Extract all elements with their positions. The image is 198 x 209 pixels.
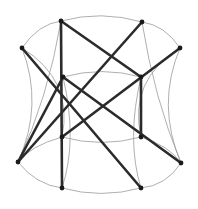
graph-vertex <box>140 20 145 25</box>
graph-vertex <box>60 186 65 191</box>
arc-edge <box>63 72 141 78</box>
graph-canvas <box>0 0 198 209</box>
arc-edge <box>61 16 142 22</box>
graph-vertex <box>179 161 184 166</box>
graph-vertex <box>61 75 66 80</box>
graph-vertex <box>139 135 144 140</box>
straight-edge <box>63 77 181 163</box>
arc-edge <box>22 48 64 137</box>
graph-vertex <box>139 75 144 80</box>
arc-edge <box>168 48 181 163</box>
graph-vertex <box>60 135 65 140</box>
arc-edge <box>18 162 62 188</box>
arc-edge <box>18 48 32 162</box>
graph-vertex <box>59 19 64 24</box>
graph-vertex <box>178 46 183 51</box>
graph-vertex <box>139 186 144 191</box>
straight-edge-layer <box>18 21 181 188</box>
arc-edge <box>138 48 180 137</box>
graph-vertex <box>16 160 21 165</box>
arc-edge <box>142 22 181 163</box>
straight-edge <box>61 21 62 188</box>
arc-edge <box>62 188 141 194</box>
arc-edge <box>22 21 61 48</box>
graph-figure <box>0 0 198 209</box>
arc-edge <box>141 163 181 188</box>
arc-edge <box>142 22 180 48</box>
graph-vertex <box>20 46 25 51</box>
